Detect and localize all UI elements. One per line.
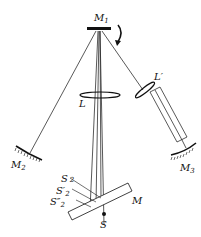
optical-diagram: M1 L L′ M3 M2	[0, 0, 201, 237]
label-s2: S2	[61, 173, 75, 184]
label-mirror-m: M	[131, 195, 143, 206]
label-m2: M2	[10, 159, 26, 172]
source-s	[102, 212, 106, 216]
label-m3: M3	[179, 162, 195, 175]
label-m1: M1	[93, 12, 109, 25]
tube	[150, 87, 187, 148]
rotating-mirror-m1	[87, 27, 111, 30]
label-lens-lprime: L′	[153, 71, 164, 82]
rotation-arrow-icon	[115, 25, 121, 46]
lens-l	[80, 92, 120, 98]
beam-splitter-m	[68, 183, 132, 220]
light-beams	[30, 31, 143, 225]
label-source: S	[100, 219, 107, 230]
label-lens-l: L	[78, 98, 86, 109]
mirror-m3	[171, 143, 196, 160]
label-s2-double-prime: S″2	[50, 196, 66, 209]
